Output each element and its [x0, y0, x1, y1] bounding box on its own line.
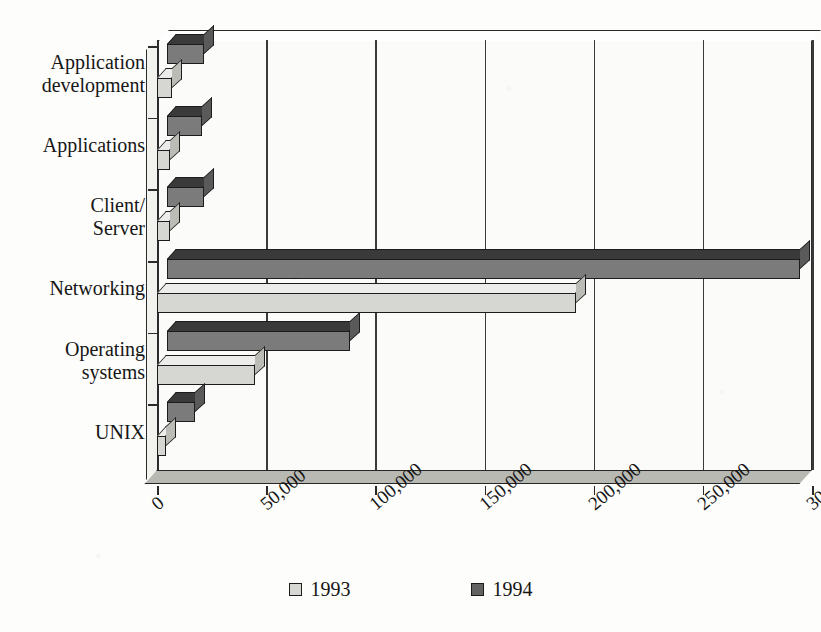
chart-legend: 1993 1994 — [0, 578, 821, 601]
bar-chart: Application developmentApplicationsClien… — [0, 0, 821, 632]
bar-1993-client--server — [157, 221, 170, 241]
bar-1994-applications — [167, 116, 202, 136]
bar-front-face — [157, 293, 576, 313]
legend-swatch-1993 — [289, 583, 302, 596]
category-label-application-development: Application development — [5, 51, 145, 97]
bar-1994-client--server — [167, 187, 204, 207]
legend-swatch-1994 — [471, 583, 484, 596]
bar-front-face — [167, 116, 202, 136]
bar-front-face — [167, 331, 350, 351]
bar-front-face — [157, 436, 166, 456]
legend-item-1993: 1993 — [289, 578, 351, 601]
category-label-unix: UNIX — [5, 421, 145, 444]
chart-top-face — [159, 30, 821, 41]
bar-front-face — [157, 150, 170, 170]
bar-1993-applications — [157, 150, 170, 170]
bar-1994-operating-systems — [167, 331, 350, 351]
category-label-client--server: Client/ Server — [5, 194, 145, 240]
bar-front-face — [167, 187, 204, 207]
plot-area: Application developmentApplicationsClien… — [157, 40, 812, 470]
bar-1993-unix — [157, 436, 166, 456]
bar-1994-networking — [167, 259, 800, 279]
bar-1993-operating-systems — [157, 365, 255, 385]
category-label-networking: Networking — [5, 277, 145, 300]
bar-top-face — [157, 283, 585, 293]
bar-front-face — [167, 44, 204, 64]
bar-front-face — [167, 259, 800, 279]
category-label-applications: Applications — [5, 134, 145, 157]
y-tick — [148, 118, 157, 120]
y-tick — [148, 404, 157, 406]
legend-label-1994: 1994 — [493, 578, 533, 601]
gridline-300000 — [812, 40, 814, 470]
bar-1994-unix — [167, 402, 195, 422]
y-tick — [148, 189, 157, 191]
legend-item-1994: 1994 — [471, 578, 533, 601]
y-tick — [148, 261, 157, 263]
bar-front-face — [157, 221, 170, 241]
bar-top-face — [167, 249, 809, 259]
bar-1993-networking — [157, 293, 576, 313]
chart-left-face — [146, 40, 157, 480]
y-tick — [148, 333, 157, 335]
bar-front-face — [157, 365, 255, 385]
bar-front-face — [167, 402, 195, 422]
bar-1994-application-development — [167, 44, 204, 64]
bar-1993-application-development — [157, 78, 172, 98]
bar-front-face — [157, 78, 172, 98]
x-label-0: 0 — [147, 492, 168, 515]
legend-label-1993: 1993 — [311, 578, 351, 601]
category-label-operating-systems: Operating systems — [5, 338, 145, 384]
x-tick-0 — [157, 486, 159, 495]
bar-top-face — [167, 321, 359, 331]
y-tick — [148, 46, 157, 48]
bar-top-face — [157, 355, 264, 365]
